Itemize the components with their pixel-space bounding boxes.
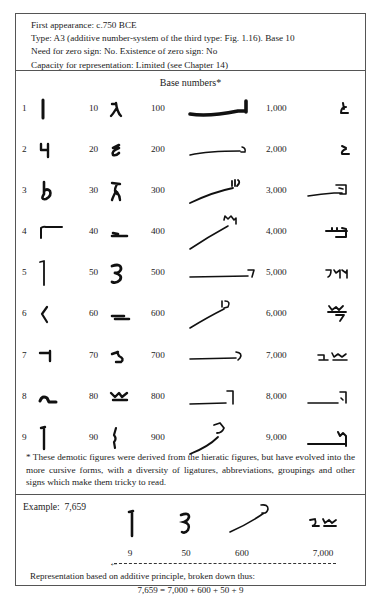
example-part-7000: 7,000	[303, 548, 343, 558]
numeral-value: 50	[89, 267, 98, 277]
table-row: 8808008,000	[16, 379, 365, 415]
numeral-value: 600	[151, 308, 165, 318]
demotic-glyph-500-icon	[188, 266, 258, 284]
glyph-50-icon	[179, 511, 193, 539]
numeral-value: 9	[22, 432, 27, 442]
numeral-value: 8	[22, 391, 27, 401]
demotic-glyph-3000-icon	[306, 182, 350, 204]
demotic-glyph-20-icon	[109, 142, 123, 162]
example-section: Example: 7,659 9 50 600 7,000 ← Represen…	[16, 494, 365, 585]
numeral-value: 700	[151, 350, 165, 360]
example-part-50: 50	[166, 548, 206, 558]
demotic-glyph-6000-icon	[326, 303, 350, 329]
capacity-info: Capacity for representation: Limited (se…	[31, 59, 365, 72]
demotic-glyph-1000-icon	[338, 101, 350, 121]
demotic-glyph-50-icon	[109, 262, 125, 288]
demotic-glyph-30-icon	[109, 180, 123, 206]
example-part-600: 600	[222, 548, 262, 558]
numeral-value: 80	[89, 391, 98, 401]
numeral-value: 40	[89, 226, 98, 236]
glyph-600-icon	[228, 501, 272, 539]
example-number: 7,659	[65, 501, 87, 512]
zero-sign-info: Need for zero sign: No. Existence of zer…	[31, 45, 365, 58]
demotic-glyph-9000-icon	[306, 427, 350, 453]
table-row: 5505005,000	[16, 255, 365, 291]
numeral-value: 500	[151, 267, 165, 277]
numeral-value: 1	[22, 103, 27, 113]
numeral-value: 1,000	[266, 103, 287, 113]
demotic-glyph-100-icon	[188, 99, 252, 123]
first-appearance: First appearance: c.750 BCE	[31, 19, 365, 32]
glyph-7000-icon	[308, 515, 338, 535]
demotic-glyph-7-icon	[38, 349, 54, 367]
numeral-value: 5	[22, 267, 27, 277]
table-row: 7707007,000	[16, 338, 365, 374]
demotic-glyph-700-icon	[188, 349, 250, 367]
numeral-value: 2,000	[266, 144, 287, 154]
demotic-glyph-4000-icon	[324, 225, 350, 243]
table-row: 4404004,000	[16, 214, 365, 250]
numeral-value: 3	[22, 185, 27, 195]
demotic-glyph-60-icon	[109, 308, 131, 326]
demotic-glyph-4-icon	[38, 224, 64, 244]
demotic-glyph-200-icon	[188, 142, 252, 162]
demotic-glyph-2000-icon	[338, 143, 350, 161]
table-row: 1101001,000	[16, 91, 365, 127]
demotic-glyph-1-icon	[38, 98, 48, 124]
numeral-value: 2	[22, 144, 27, 154]
table-title: Base numbers*	[16, 77, 365, 88]
demotic-glyph-7000-icon	[316, 349, 350, 367]
numeral-value: 10	[89, 103, 98, 113]
numeral-value: 3,000	[266, 185, 287, 195]
demotic-glyph-8000-icon	[306, 388, 350, 410]
example-label: Example: 7,659	[23, 501, 86, 512]
numeral-value: 4	[22, 226, 27, 236]
system-info-header: First appearance: c.750 BCE Type: A3 (ad…	[16, 14, 365, 71]
numeral-value: 300	[151, 185, 165, 195]
numeral-value: 9,000	[266, 432, 287, 442]
representation-note: Representation based on additive princip…	[30, 571, 255, 581]
demotic-glyph-80-icon	[109, 390, 131, 408]
demotic-glyph-5-icon	[38, 259, 48, 291]
demotic-glyph-10-icon	[109, 100, 123, 122]
table-row: 6606006,000	[16, 296, 365, 332]
numeral-value: 200	[151, 144, 165, 154]
demotic-glyph-70-icon	[109, 348, 127, 368]
numeral-value: 20	[89, 144, 98, 154]
glyph-9-icon	[126, 509, 138, 543]
demotic-glyph-600-icon	[188, 297, 234, 335]
table-row: 2202002,000	[16, 132, 365, 168]
demotic-glyph-300-icon	[188, 176, 246, 210]
numeral-value: 7,000	[266, 350, 287, 360]
reading-direction-arrow	[114, 563, 336, 564]
numeral-value: 6	[22, 308, 27, 318]
table-row: 3303003,000	[16, 173, 365, 209]
demotic-numerals-figure: First appearance: c.750 BCE Type: A3 (ad…	[15, 13, 366, 586]
demotic-glyph-90-icon	[109, 426, 121, 454]
numeral-value: 8,000	[266, 391, 287, 401]
demotic-glyph-40-icon	[109, 226, 129, 244]
numeral-value: 900	[151, 432, 165, 442]
numeral-value: 5,000	[266, 267, 287, 277]
demotic-glyph-800-icon	[188, 387, 242, 411]
numeral-value: 100	[151, 103, 165, 113]
numeral-value: 6,000	[266, 308, 287, 318]
numeral-value: 70	[89, 350, 98, 360]
numeral-value: 400	[151, 226, 165, 236]
demotic-glyph-6-icon	[38, 304, 50, 328]
demotic-glyph-2-icon	[38, 141, 52, 163]
numeral-value: 90	[89, 432, 98, 442]
numeral-value: 30	[89, 185, 98, 195]
numeral-value: 4,000	[266, 226, 287, 236]
demotic-glyph-5000-icon	[324, 266, 350, 284]
numeral-value: 7	[22, 350, 27, 360]
demotic-glyph-8-icon	[38, 391, 58, 409]
numeral-value: 60	[89, 308, 98, 318]
footnote: * These demotic figures were derived fro…	[26, 451, 355, 489]
decomposition-equation: 7,659 = 7,000 + 600 + 50 + 9	[16, 585, 365, 595]
demotic-glyph-3-icon	[38, 180, 54, 206]
system-type: Type: A3 (additive number-system of the …	[31, 32, 365, 45]
numeral-value: 800	[151, 391, 165, 401]
demotic-glyph-400-icon	[188, 212, 238, 256]
